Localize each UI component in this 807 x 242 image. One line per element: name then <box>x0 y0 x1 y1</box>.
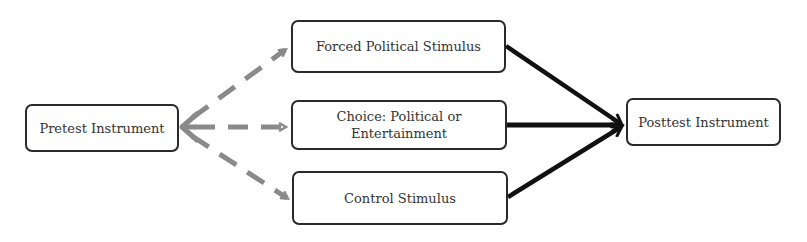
node-control-stimulus: Control Stimulus <box>292 171 508 225</box>
node-label-line1: Choice: Political or <box>337 108 462 125</box>
node-forced-political-stimulus: Forced Political Stimulus <box>291 20 506 73</box>
node-label: Pretest Instrument <box>39 120 164 137</box>
edge-control-posttest <box>508 127 621 197</box>
dashed-arrows <box>182 50 287 198</box>
node-pretest-instrument: Pretest Instrument <box>25 104 179 152</box>
experiment-design-diagram: Pretest Instrument Forced Political Stim… <box>0 0 807 242</box>
edge-pretest-forced <box>192 50 285 118</box>
node-label: Forced Political Stimulus <box>316 38 481 55</box>
solid-arrows <box>506 46 621 197</box>
node-posttest-instrument: Posttest Instrument <box>626 98 781 146</box>
edge-pretest-control <box>192 136 287 198</box>
node-label: Posttest Instrument <box>638 114 769 131</box>
node-label: Control Stimulus <box>344 190 456 207</box>
node-label-line2: Entertainment <box>337 125 462 142</box>
edge-forced-posttest <box>506 46 621 124</box>
node-choice-political-or-entertainment: Choice: Political or Entertainment <box>291 100 507 150</box>
